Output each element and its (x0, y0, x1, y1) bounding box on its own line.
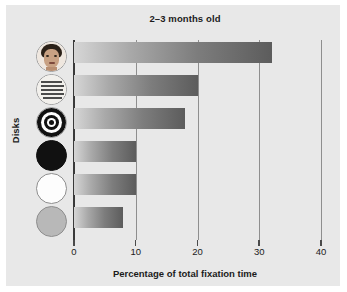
face-eye-left (46, 55, 49, 57)
x-tick-label-0: 0 (59, 246, 89, 257)
bar-black (74, 141, 136, 162)
face-neck (46, 67, 57, 72)
bar-grey (74, 207, 123, 228)
newsprint-line (41, 81, 62, 83)
newsprint-line (41, 89, 63, 91)
x-tick-label-40: 40 (306, 246, 336, 257)
x-tick-label-20: 20 (183, 246, 213, 257)
plot-area (74, 40, 321, 240)
chart-title: 2–3 months old (60, 13, 310, 24)
face-disk-icon (36, 41, 67, 72)
newsprint-line (43, 97, 62, 99)
face-skin (44, 49, 59, 68)
white-disk-icon (36, 173, 67, 204)
bullseye-disk-icon (36, 107, 67, 138)
black-disk-icon (36, 140, 67, 171)
gridline-30 (259, 40, 260, 240)
newsprint-line (41, 93, 64, 95)
gridline-10 (136, 40, 137, 240)
newsprint-disk-icon (36, 74, 67, 105)
figure-root: 2–3 months old Disks (0, 0, 347, 292)
x-tick-label-10: 10 (121, 246, 151, 257)
bar-white (74, 174, 136, 195)
newsprint-line (41, 85, 64, 87)
bar-face (74, 42, 272, 63)
face-eye-right (54, 55, 57, 57)
bar-bullseye (74, 108, 185, 129)
bullseye-center (49, 120, 54, 125)
grey-disk-icon (36, 206, 67, 237)
y-axis-label: Disks (10, 101, 21, 161)
gridline-40 (321, 40, 322, 240)
x-axis-label: Percentage of total fixation time (40, 268, 330, 279)
x-tick-label-30: 30 (244, 246, 274, 257)
bar-newsprint (74, 75, 198, 96)
face-mouth (49, 62, 55, 64)
gridline-20 (198, 40, 199, 240)
